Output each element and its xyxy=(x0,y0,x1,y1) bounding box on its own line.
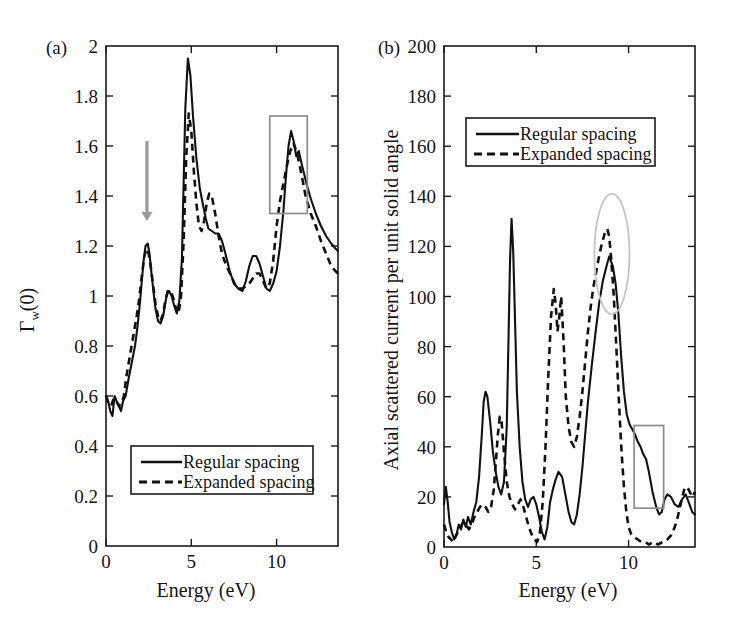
figure-background xyxy=(0,0,731,628)
panel-a-y-tick-label: 0.8 xyxy=(74,336,98,357)
panel-b-y-tick-label: 20 xyxy=(417,487,436,508)
panel-b-y-tick-label: 140 xyxy=(408,186,437,207)
panel-a-x-axis-title: Energy (eV) xyxy=(156,579,255,602)
panel-b-x-tick-label: 5 xyxy=(532,552,542,573)
panel-a-legend: Regular spacing Expanded spacing xyxy=(131,446,314,494)
panel-b-y-axis-title-text: Axial scattered current per unit solid a… xyxy=(380,129,403,470)
panel-a-y-tick-label: 1.4 xyxy=(74,186,98,207)
panel-b-y-tick-label: 120 xyxy=(408,236,437,257)
panel-a-x-tick-label: 10 xyxy=(267,551,286,572)
panel-a-legend-label-regular: Regular spacing xyxy=(183,452,299,472)
panel-b-y-tick-label: 100 xyxy=(408,287,437,308)
panel-a-y-tick-label: 1 xyxy=(89,286,99,307)
panel-a-label: (a) xyxy=(46,37,67,59)
panel-a-x-tick-label: 5 xyxy=(187,551,197,572)
panel-a-y-axis-gamma: Γ xyxy=(16,321,38,333)
panel-b-y-tick-label: 0 xyxy=(427,537,437,558)
panel-a-y-tick-label: 0.4 xyxy=(74,436,98,457)
panel-b-legend: Regular spacing Expanded spacing xyxy=(466,118,655,166)
panel-b-y-tick-label: 60 xyxy=(417,387,436,408)
panel-a-y-tick-label: 1.2 xyxy=(74,236,98,257)
two-panel-line-chart: (a) 00.20.40.60.811.21.41.61.82 0510 Ene… xyxy=(0,0,731,628)
panel-b-y-tick-label: 40 xyxy=(417,437,436,458)
panel-a-y-tick-label: 0.6 xyxy=(74,386,98,407)
panel-a-y-axis-rest: (0) xyxy=(16,288,39,311)
panel-b-legend-label-regular: Regular spacing xyxy=(520,124,636,144)
panel-b-y-tick-label: 160 xyxy=(408,136,437,157)
panel-b-x-axis-title: Energy (eV) xyxy=(518,579,617,602)
panel-b-y-tick-label: 200 xyxy=(408,36,437,57)
panel-a-y-tick-label: 1.8 xyxy=(74,86,98,107)
panel-a-y-tick-label: 0 xyxy=(89,536,99,557)
panel-b-y-axis-title: Axial scattered current per unit solid a… xyxy=(380,129,403,470)
panel-a-y-tick-label: 0.2 xyxy=(74,486,98,507)
figure-container: (a) 00.20.40.60.811.21.41.61.82 0510 Ene… xyxy=(0,0,731,628)
panel-a-x-tick-label: 0 xyxy=(101,551,111,572)
panel-b-x-tick-label: 10 xyxy=(619,552,638,573)
panel-b-label: (b) xyxy=(378,37,400,59)
panel-a-y-tick-label: 1.6 xyxy=(74,136,98,157)
panel-b-x-tick-label: 0 xyxy=(439,552,449,573)
panel-b-legend-label-expanded: Expanded spacing xyxy=(520,144,651,164)
panel-a-legend-label-expanded: Expanded spacing xyxy=(183,472,314,492)
panel-b-y-tick-label: 180 xyxy=(408,86,437,107)
panel-b-y-tick-label: 80 xyxy=(417,337,436,358)
panel-a-y-tick-label: 2 xyxy=(89,36,99,57)
